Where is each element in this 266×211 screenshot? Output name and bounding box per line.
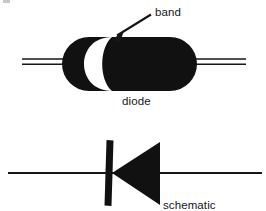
- diode-body: [62, 37, 197, 91]
- label-schematic-symbol-equivalent: schematic symbol equivalent: [163, 174, 216, 211]
- label-band: band: [155, 7, 181, 19]
- label-diode: diode: [122, 96, 151, 108]
- label-schematic-line-1: schematic: [163, 199, 216, 211]
- diode-figure: band diode schematic symbol equivalent: [0, 0, 266, 211]
- symbol-anode-triangle: [112, 142, 160, 205]
- symbol-cathode-bar: [105, 140, 114, 206]
